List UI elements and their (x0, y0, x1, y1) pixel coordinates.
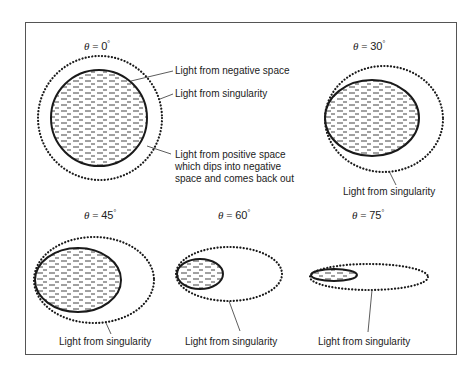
negative-space-light-region (177, 259, 223, 289)
leader-singularity (160, 94, 173, 99)
angle-heading-75: θ = 75° (352, 208, 384, 221)
leader-singularity (106, 323, 111, 334)
label-singularity-60: Light from singularity (185, 336, 277, 348)
leader-singularity (389, 171, 396, 185)
angle-heading-30: θ = 30° (353, 39, 385, 52)
negative-space-light-region (325, 80, 419, 156)
panel-theta-0 (38, 56, 173, 180)
label-singularity-30: Light from singularity (343, 186, 435, 198)
label-singularity: Light from singularity (175, 88, 267, 100)
panel-theta-75 (310, 264, 428, 332)
angle-heading-45: θ = 45° (84, 208, 116, 221)
leader-singularity (368, 290, 372, 332)
panel-theta-45 (34, 237, 154, 334)
leader-negative-space (131, 71, 173, 81)
angle-heading-0: θ = 0° (84, 39, 110, 52)
negative-space-light-region (51, 70, 147, 166)
panel-theta-30 (325, 66, 443, 185)
label-singularity-75: Light from singularity (318, 336, 410, 348)
panel-theta-60 (176, 247, 282, 331)
leader-singularity (229, 301, 240, 331)
label-positive-space: Light from positive space which dips int… (175, 149, 294, 185)
negative-space-light-region (311, 269, 357, 281)
negative-space-light-region (35, 248, 121, 312)
angle-heading-60: θ = 60° (218, 208, 250, 221)
label-singularity-45: Light from singularity (59, 336, 151, 348)
label-negative-space: Light from negative space (175, 65, 290, 77)
